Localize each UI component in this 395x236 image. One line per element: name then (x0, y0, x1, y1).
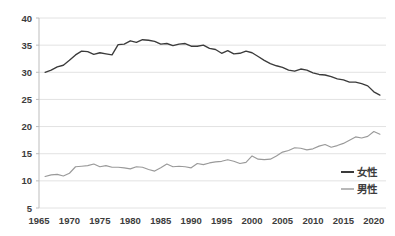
x-tick-label: 2015 (333, 215, 355, 226)
y-tick-label: 10 (21, 175, 32, 186)
y-tick-label: 15 (21, 148, 32, 159)
x-tick-label: 1970 (59, 215, 80, 226)
series-group (45, 40, 380, 177)
grid-lines (39, 18, 386, 208)
y-tick-label: 25 (21, 94, 32, 105)
x-tick-label: 1995 (211, 215, 233, 226)
x-tick-label: 1980 (120, 215, 141, 226)
x-tick-label: 2005 (272, 215, 294, 226)
x-tick-label: 1975 (89, 215, 111, 226)
y-axis-ticks: 510152025303540 (21, 13, 39, 214)
y-tick-label: 20 (21, 121, 32, 132)
y-tick-label: 5 (27, 203, 33, 214)
chart-canvas: 5101520253035401965197019751980198519901… (0, 0, 395, 236)
x-tick-label: 1990 (181, 215, 202, 226)
legend-label-female: 女性 (357, 166, 378, 178)
y-tick-label: 35 (21, 40, 32, 51)
x-tick-label: 2020 (363, 215, 384, 226)
x-axis-ticks: 1965197019751980198519901995200020052010… (28, 215, 384, 226)
legend-label-male: 男性 (357, 183, 378, 195)
series-line-female (45, 40, 380, 95)
line-chart: 5101520253035401965197019751980198519901… (0, 0, 395, 236)
x-tick-label: 2000 (241, 215, 262, 226)
y-tick-label: 40 (21, 13, 32, 24)
y-tick-label: 30 (21, 67, 32, 78)
chart-legend: 女性男性 (341, 166, 378, 195)
x-tick-label: 1965 (28, 215, 50, 226)
x-tick-label: 1985 (150, 215, 172, 226)
x-tick-label: 2010 (302, 215, 323, 226)
